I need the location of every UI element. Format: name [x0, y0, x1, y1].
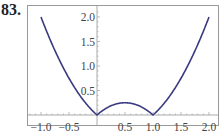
y-tick-label: 2.0	[81, 11, 96, 23]
x-tick-label: 1.5	[174, 121, 189, 133]
plot-frame	[28, 6, 219, 126]
x-tick-label: 2.0	[202, 121, 217, 133]
x-tick-label: 0.5	[118, 121, 133, 133]
x-tick-label: −1.0	[31, 121, 52, 133]
axes	[28, 6, 218, 125]
y-tick-label: 1.0	[81, 60, 96, 72]
x-tick-label: −0.5	[59, 121, 80, 133]
y-tick-label: 0.5	[81, 85, 96, 97]
x-tick-label: 1.0	[146, 121, 161, 133]
curve-line	[41, 17, 209, 115]
function-plot: −1.0−0.50.51.01.52.00.51.01.52.0	[0, 0, 222, 138]
y-tick-label: 1.5	[81, 36, 96, 48]
